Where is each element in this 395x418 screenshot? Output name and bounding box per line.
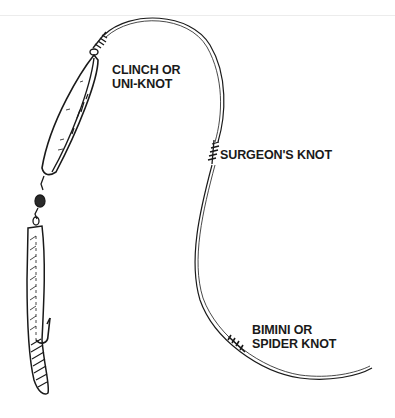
bimini-knot-label-line1: BIMINI OR <box>252 323 336 337</box>
clinch-knot-icon <box>90 32 107 55</box>
clinch-knot-label-line1: CLINCH OR <box>112 63 181 77</box>
lure-icon <box>42 55 98 175</box>
clinch-knot-label: CLINCH OR UNI-KNOT <box>112 63 181 91</box>
surgeons-knot-icon <box>208 140 219 164</box>
rig-illustration <box>0 0 395 418</box>
bait-strip-icon <box>27 226 48 394</box>
surgeons-knot-label-line1: SURGEON'S KNOT <box>220 148 332 162</box>
bimini-knot-label: BIMINI OR SPIDER KNOT <box>252 323 336 351</box>
clinch-knot-label-line2: UNI-KNOT <box>112 77 181 91</box>
bimini-knot-label-line2: SPIDER KNOT <box>252 337 336 351</box>
swivel-icon <box>33 176 45 225</box>
surgeons-knot-label: SURGEON'S KNOT <box>220 148 332 162</box>
